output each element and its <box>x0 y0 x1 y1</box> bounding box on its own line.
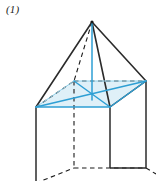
apex-vertex-dot <box>90 20 93 23</box>
prism-hidden-bottom-front-left-to-back-left <box>36 168 74 181</box>
pyramid-hidden-slant-edge-back-left <box>74 22 92 81</box>
geometry-figure-panel: (1) <box>0 0 156 181</box>
solid-figure-drawing <box>0 0 156 181</box>
prism-hidden-bottom-back-right-tail <box>146 168 156 174</box>
pyramid-slant-edge-back-right <box>92 22 146 81</box>
